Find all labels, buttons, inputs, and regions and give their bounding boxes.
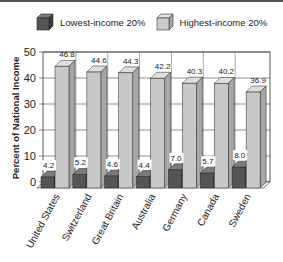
value-label-highest: 44.6 bbox=[91, 56, 107, 65]
value-label-highest: 44.3 bbox=[123, 57, 139, 66]
value-label-lowest: 4.2 bbox=[43, 161, 55, 170]
x-tick-label: Canada bbox=[195, 191, 221, 227]
bar-highest bbox=[151, 72, 171, 188]
y-axis-title: Percent of National Income bbox=[10, 57, 21, 179]
value-label-highest: 40.2 bbox=[218, 67, 234, 76]
bar-highest bbox=[119, 67, 139, 188]
x-tick-label: Great Britain bbox=[89, 192, 125, 247]
value-label-lowest: 8.0 bbox=[234, 151, 246, 160]
bar-highest bbox=[246, 86, 266, 188]
y-tick-label: 0 bbox=[30, 176, 36, 188]
bar-highest bbox=[87, 66, 107, 188]
x-tick-label: Switzerland bbox=[60, 192, 94, 243]
x-axis-labels: United StatesSwitzerlandGreat BritainAus… bbox=[24, 191, 253, 250]
y-tick-label: 30 bbox=[24, 98, 36, 110]
y-axis: 01020304050 bbox=[24, 46, 36, 188]
x-tick-label: Germany bbox=[160, 192, 189, 233]
y-tick-label: 40 bbox=[24, 72, 36, 84]
bar-highest bbox=[182, 77, 202, 188]
value-label-lowest: 5.2 bbox=[75, 158, 87, 167]
value-label-lowest: 7.0 bbox=[170, 154, 182, 163]
bar-highest bbox=[214, 77, 234, 188]
value-label-highest: 46.8 bbox=[59, 50, 75, 59]
bar-chart: 4.246.85.244.64.644.34.442.27.040.35.740… bbox=[0, 0, 283, 262]
x-tick-label: Sweden bbox=[226, 192, 253, 229]
value-label-highest: 36.9 bbox=[250, 76, 266, 85]
y-tick-label: 10 bbox=[24, 150, 36, 162]
y-tick-label: 50 bbox=[24, 46, 36, 58]
value-label-highest: 42.2 bbox=[155, 62, 171, 71]
value-label-lowest: 4.6 bbox=[107, 160, 119, 169]
value-label-lowest: 5.7 bbox=[202, 157, 214, 166]
x-tick-label: Australia bbox=[129, 191, 157, 231]
y-tick-label: 20 bbox=[24, 124, 36, 136]
x-tick-label: United States bbox=[24, 192, 62, 250]
bar-highest bbox=[55, 60, 75, 188]
value-label-lowest: 4.4 bbox=[139, 161, 151, 170]
value-label-highest: 40.3 bbox=[187, 67, 203, 76]
